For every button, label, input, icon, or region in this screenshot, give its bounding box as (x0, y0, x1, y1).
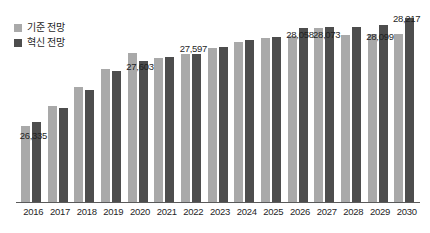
bar-base-forecast (181, 54, 190, 202)
bar-value-label: 28,058 (286, 30, 313, 40)
bar-innovation-forecast (112, 71, 121, 202)
bar-base-forecast (341, 35, 350, 202)
bar-group (208, 8, 232, 202)
bar-group (234, 8, 258, 202)
bar-innovation-forecast (379, 25, 388, 202)
bar-innovation-forecast (245, 40, 254, 202)
bar-innovation-forecast (405, 18, 414, 202)
bar-innovation-forecast (325, 27, 334, 202)
bar-group (261, 8, 285, 202)
x-tick-label: 2021 (157, 206, 177, 218)
bar-base-forecast (48, 106, 57, 202)
bar-value-label: 27,597 (180, 44, 207, 54)
x-axis-line (16, 202, 420, 203)
bar-base-forecast (154, 58, 163, 202)
bar-chart: 기준 전망 혁신 전망 26,33527,60327,59728,05828,0… (0, 0, 430, 233)
bar-base-forecast (208, 48, 217, 202)
bar-value-label: 28,073 (313, 30, 340, 40)
bar-innovation-forecast (272, 37, 281, 202)
x-tick-label: 2016 (23, 206, 43, 218)
bar-base-forecast (261, 38, 270, 202)
bar-group (154, 8, 178, 202)
bar-group (128, 8, 152, 202)
plot-area: 26,33527,60327,59728,05828,07328,09928,2… (18, 8, 418, 202)
x-tick-label: 2022 (183, 206, 203, 218)
legend-item-base: 기준 전망 (14, 22, 65, 34)
bar-innovation-forecast (352, 27, 361, 202)
bar-value-label: 26,335 (20, 131, 47, 141)
legend-swatch-innovation-icon (14, 39, 22, 47)
x-axis-tick-labels: 2016201720182019202020212022202320242025… (18, 206, 418, 222)
x-tick-label: 2028 (343, 206, 363, 218)
chart-legend: 기준 전망 혁신 전망 (14, 22, 65, 52)
x-tick-label: 2020 (130, 206, 150, 218)
x-tick-label: 2029 (370, 206, 390, 218)
bar-group (181, 8, 205, 202)
bar-value-label: 28,099 (366, 32, 393, 42)
bar-group (341, 8, 365, 202)
bar-innovation-forecast (192, 54, 201, 202)
bar-group (394, 8, 418, 202)
x-tick-label: 2026 (290, 206, 310, 218)
bar-value-label: 27,603 (126, 62, 153, 72)
bar-innovation-forecast (299, 28, 308, 202)
bar-base-forecast (101, 69, 110, 202)
x-tick-label: 2017 (50, 206, 70, 218)
bar-base-forecast (394, 34, 403, 202)
bar-base-forecast (314, 28, 323, 202)
bar-innovation-forecast (219, 47, 228, 202)
x-tick-label: 2025 (263, 206, 283, 218)
legend-label-base: 기준 전망 (27, 23, 65, 33)
bar-base-forecast (368, 34, 377, 202)
legend-swatch-base-icon (14, 24, 22, 32)
bar-base-forecast (74, 87, 83, 202)
x-tick-label: 2027 (317, 206, 337, 218)
bar-innovation-forecast (59, 108, 68, 202)
bar-innovation-forecast (165, 57, 174, 202)
bar-innovation-forecast (139, 61, 148, 203)
x-tick-label: 2023 (210, 206, 230, 218)
x-tick-label: 2024 (237, 206, 257, 218)
x-tick-label: 2018 (77, 206, 97, 218)
legend-item-innovation: 혁신 전망 (14, 37, 65, 49)
bar-innovation-forecast (85, 90, 94, 202)
x-tick-label: 2019 (103, 206, 123, 218)
bar-group (101, 8, 125, 202)
bar-base-forecast (234, 42, 243, 202)
bar-base-forecast (288, 36, 297, 202)
legend-label-innovation: 혁신 전망 (27, 38, 65, 48)
bar-value-label: 28,217 (393, 14, 420, 24)
x-tick-label: 2030 (397, 206, 417, 218)
bar-base-forecast (128, 53, 137, 202)
bar-group (74, 8, 98, 202)
